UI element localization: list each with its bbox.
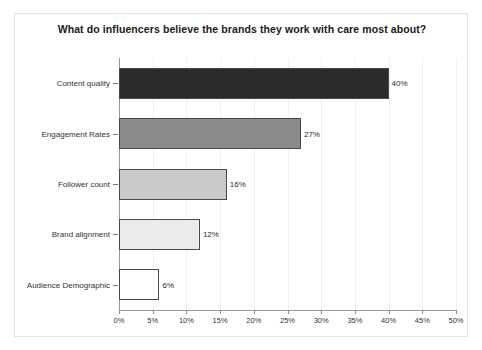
- x-tick-label: 35%: [347, 316, 362, 325]
- bar-value-label: 6%: [159, 280, 174, 289]
- x-tick: [288, 310, 289, 314]
- x-tick-label: 25%: [280, 316, 295, 325]
- category-tick: [113, 285, 118, 286]
- x-tick: [119, 310, 120, 314]
- bar-row: 40%: [119, 68, 456, 99]
- category-tick: [113, 134, 118, 135]
- x-tick: [186, 310, 187, 314]
- x-tick-label: 20%: [246, 316, 261, 325]
- bar-row: 6%: [119, 269, 456, 300]
- bar-value-label: 27%: [301, 129, 320, 138]
- bar-row: 27%: [119, 118, 456, 149]
- x-tick-label: 45%: [415, 316, 430, 325]
- chart-card: What do influencers believe the brands t…: [14, 13, 468, 337]
- x-tick: [254, 310, 255, 314]
- category-label: Content quality: [15, 79, 110, 88]
- category-label: Audience Demographic: [15, 280, 110, 289]
- x-tick-label: 30%: [314, 316, 329, 325]
- plot-area: 40%27%16%12%6%: [119, 58, 456, 310]
- x-tick: [389, 310, 390, 314]
- bar[interactable]: [119, 118, 301, 149]
- x-tick-label: 10%: [179, 316, 194, 325]
- x-tick: [220, 310, 221, 314]
- bar-row: 16%: [119, 169, 456, 200]
- bar-value-label: 16%: [227, 180, 246, 189]
- x-tick-label: 5%: [147, 316, 158, 325]
- x-tick-label: 15%: [213, 316, 228, 325]
- category-label: Engagement Rates: [15, 129, 110, 138]
- bar[interactable]: [119, 269, 159, 300]
- category-label: Follower count: [15, 180, 110, 189]
- x-tick: [456, 310, 457, 314]
- x-tick: [355, 310, 356, 314]
- x-tick: [422, 310, 423, 314]
- chart-title: What do influencers believe the brands t…: [15, 23, 469, 35]
- gridline-50: [456, 58, 457, 310]
- x-tick: [153, 310, 154, 314]
- x-tick-label: 50%: [448, 316, 463, 325]
- x-tick-label: 40%: [381, 316, 396, 325]
- category-tick: [113, 234, 118, 235]
- category-label: Brand alignment: [15, 230, 110, 239]
- bar[interactable]: [119, 219, 200, 250]
- bar-value-label: 12%: [200, 230, 219, 239]
- bar-value-label: 40%: [389, 79, 408, 88]
- x-tick-label: 0%: [114, 316, 125, 325]
- bar-row: 12%: [119, 219, 456, 250]
- category-tick: [113, 83, 118, 84]
- bar[interactable]: [119, 169, 227, 200]
- category-tick: [113, 184, 118, 185]
- bar[interactable]: [119, 68, 389, 99]
- x-tick: [321, 310, 322, 314]
